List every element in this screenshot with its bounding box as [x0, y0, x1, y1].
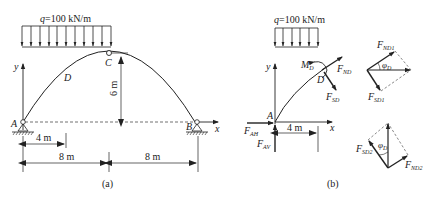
- angle-arc-upper: [378, 63, 380, 70]
- dim-4m-b: 4 m: [287, 122, 303, 133]
- point-D-label-b: D: [316, 74, 325, 85]
- caption-b: (b): [327, 178, 339, 190]
- dim-4m-a: 4 m: [36, 132, 52, 143]
- force-FND2-label: FND2: [404, 159, 422, 171]
- point-A-label-b: A: [266, 110, 274, 121]
- force-FSD2-label: FSD2: [355, 143, 372, 155]
- point-C-label: C: [105, 57, 112, 68]
- force-decomposition-upper: FND1 FSD1 φD: [367, 39, 411, 103]
- y-axis-label-b: y: [265, 61, 271, 72]
- force-FSD-label: FSD: [325, 91, 340, 103]
- hinge-C: [107, 51, 112, 56]
- caption-a: (a): [102, 178, 113, 190]
- dashed-parallelogram-3: [368, 123, 388, 140]
- figure-a: q=100 kN/m y x C D 6 m A: [10, 13, 220, 190]
- dim-8m-left: 8 m: [59, 151, 75, 162]
- distributed-load-a: [22, 26, 111, 47]
- force-FAH-label: FAH: [243, 125, 259, 137]
- dashed-parallelogram-2: [381, 70, 411, 91]
- dim-8m-right: 8 m: [145, 151, 161, 162]
- load-label-b: q=100 kN/m: [274, 14, 325, 25]
- force-FND-label: FND: [336, 63, 352, 75]
- force-decomposition-lower: FSD2 FND2 φD: [355, 123, 422, 171]
- arch-diagram: q=100 kN/m y x C D 6 m A: [0, 0, 433, 205]
- point-B-label: B: [186, 121, 192, 132]
- angle-arc-lower: [379, 152, 388, 155]
- point-D-label: D: [63, 72, 72, 83]
- dashed-parallelogram-1: [395, 51, 411, 70]
- force-FSD1-arrow: [367, 70, 380, 90]
- distributed-load-b: [275, 28, 318, 47]
- moment-MD-label: MD: [300, 59, 314, 71]
- load-label-a: q=100 kN/m: [40, 13, 91, 24]
- force-FAV-label: FAV: [256, 138, 271, 150]
- height-dim-label: 6 m: [108, 81, 119, 97]
- dashed-parallelogram-4: [388, 123, 408, 155]
- y-axis-label-a: y: [13, 61, 19, 72]
- force-FSD-arrow: [324, 72, 336, 90]
- force-FSD1-label: FSD1: [367, 91, 384, 103]
- point-A-label-a: A: [10, 118, 18, 129]
- angle-phi-upper: φD: [382, 60, 392, 71]
- figure-b: q=100 kN/m y x A FAH FAV 4 m MD D FND FS…: [243, 14, 422, 190]
- angle-phi-lower: φD: [378, 140, 388, 151]
- x-axis-label-a: x: [214, 123, 220, 134]
- x-axis-label-b: x: [329, 122, 335, 133]
- force-FND1-label: FND1: [376, 39, 394, 51]
- diagram-canvas: q=100 kN/m y x C D 6 m A: [0, 0, 433, 205]
